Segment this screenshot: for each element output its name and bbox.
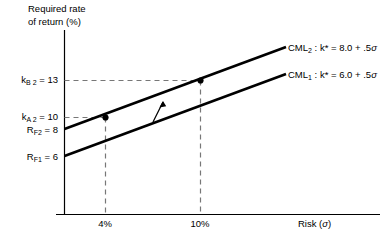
x-tick-label-4pct: 4%: [85, 218, 125, 230]
y-tick-rf2-value: = 8: [45, 124, 58, 135]
y-axis-title: Required rateof return (%): [28, 3, 86, 28]
y-tick-rf2-subscript: F2: [34, 129, 42, 136]
cml1-equation-body: = 6.0 + .5: [331, 69, 371, 80]
y-tick-kb2-value: = 13: [39, 74, 58, 85]
y-tick-ka2-subscript: A 2: [26, 116, 36, 123]
y-tick-rf1-subscript: F1: [34, 156, 42, 163]
x-tick-label-10pct: 10%: [180, 218, 220, 230]
y-tick-kb2-subscript: B 2: [26, 79, 37, 86]
x-axis-title-text: Risk (: [298, 218, 322, 229]
cml1-line: [65, 74, 287, 156]
data-point-ka2: [102, 114, 108, 120]
y-tick-label-rf2: RF2 = 8: [0, 124, 58, 139]
cml2-sigma-symbol-icon: σ: [371, 42, 377, 53]
cml1-sigma-symbol-icon: σ: [371, 69, 377, 80]
cml2-line: [65, 47, 287, 129]
data-point-kb2: [197, 77, 203, 83]
x-axis-title-close: ): [328, 218, 331, 229]
cml1-kstar: k*: [320, 69, 328, 80]
cml2-name: CML: [288, 42, 308, 53]
y-tick-rf2-base: R: [27, 124, 34, 135]
y-tick-rf1-base: R: [27, 151, 34, 162]
y-axis-title-line2: of return (%): [28, 16, 81, 27]
cml1-name: CML: [288, 69, 308, 80]
y-tick-rf1-value: = 6: [45, 151, 58, 162]
chart-graphics: [0, 0, 388, 235]
x-axis-title: Risk (σ): [298, 218, 378, 230]
cml2-kstar: k*: [320, 42, 328, 53]
y-axis-title-line1: Required rate: [28, 3, 86, 14]
cml1-equation-label: CML1 : k* = 6.0 + .5σ: [288, 69, 377, 84]
cml1-separator: :: [312, 69, 320, 80]
y-tick-label-rf1: RF1 = 6: [0, 151, 58, 166]
y-tick-ka2-value: = 10: [39, 111, 58, 122]
chart-canvas: Required rateof return (%) kB 2 = 13 kA …: [0, 0, 388, 235]
cml2-separator: :: [312, 42, 320, 53]
y-tick-label-kb2: kB 2 = 13: [0, 74, 58, 89]
cml2-equation-body: = 8.0 + .5: [331, 42, 371, 53]
cml2-equation-label: CML2 : k* = 8.0 + .5σ: [288, 42, 377, 57]
